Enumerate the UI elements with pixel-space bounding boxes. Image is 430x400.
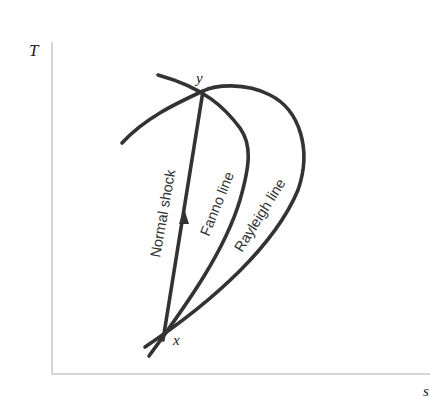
y-axis-label: T [29, 41, 40, 60]
axes: T s [29, 41, 430, 399]
arrow-icon [179, 208, 189, 224]
x-axis-label: s [423, 383, 429, 399]
point-x-label: x [172, 332, 180, 348]
rayleigh-line-label: Rayleigh line [231, 176, 289, 255]
normal-shock-label: Normal shock [147, 168, 178, 259]
ts-diagram: T s y x Normal shock Fanno line Rayleigh… [0, 0, 430, 400]
point-y-label: y [194, 70, 203, 86]
